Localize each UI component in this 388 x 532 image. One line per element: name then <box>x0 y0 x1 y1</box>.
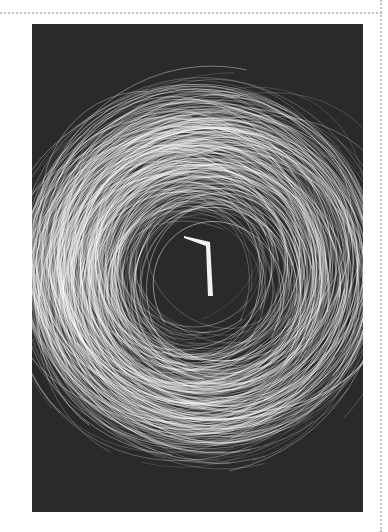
numeral-one-glyph <box>32 24 363 512</box>
artwork-image <box>32 24 363 512</box>
dotted-frame-top <box>0 12 382 14</box>
dotted-frame-right <box>380 0 382 532</box>
